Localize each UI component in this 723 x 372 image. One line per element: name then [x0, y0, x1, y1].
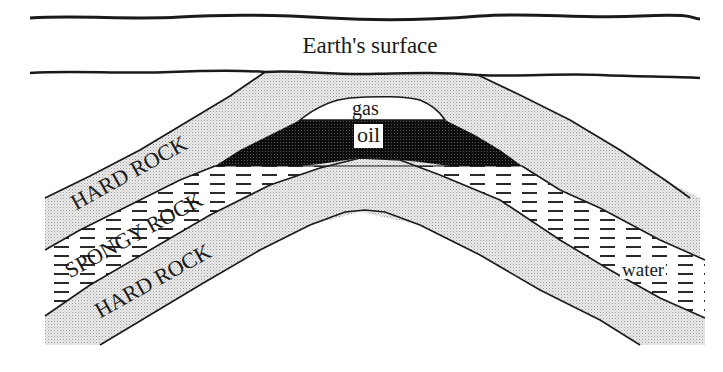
- water-label: water: [620, 260, 666, 279]
- surface-bottom-line-right: [478, 74, 700, 78]
- surface-bottom-line-left: [30, 71, 265, 74]
- earth-surface-label: Earth's surface: [0, 34, 723, 57]
- oil-label: oil: [354, 124, 383, 148]
- gas-label: gas: [352, 98, 379, 118]
- surface-top-line: [30, 15, 700, 20]
- oil-trap-diagram: Earth's surface HARD ROCK SPONGY ROCK HA…: [0, 0, 723, 372]
